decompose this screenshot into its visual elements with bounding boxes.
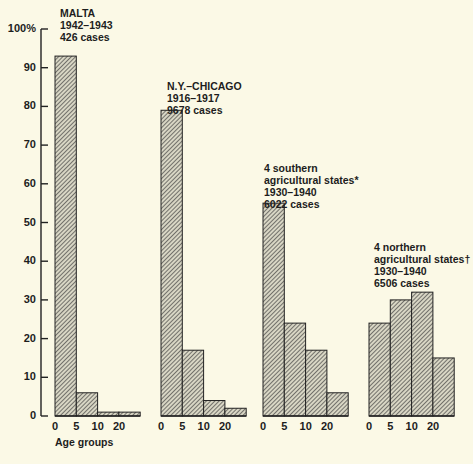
bar-group bbox=[55, 56, 140, 416]
x-tick-label: 20 bbox=[427, 420, 439, 432]
bar-group bbox=[161, 110, 246, 416]
y-tick-label: 100% bbox=[2, 22, 36, 34]
x-tick-label: 10 bbox=[300, 420, 312, 432]
x-tick-label: 0 bbox=[158, 420, 164, 432]
bar bbox=[161, 110, 182, 416]
age-distribution-bar-chart: 100%9080706050403020100MALTA1942–1943426… bbox=[0, 0, 473, 464]
y-tick-label: 10 bbox=[2, 370, 36, 382]
y-tick-label: 90 bbox=[2, 61, 36, 73]
x-tick-label: 5 bbox=[281, 420, 287, 432]
y-tick-label: 50 bbox=[2, 216, 36, 228]
bar bbox=[390, 300, 411, 416]
x-tick-label: 20 bbox=[113, 420, 125, 432]
y-tick-label: 80 bbox=[2, 99, 36, 111]
x-tick-label: 10 bbox=[92, 420, 104, 432]
bar bbox=[369, 323, 390, 416]
bar bbox=[225, 408, 246, 416]
series-title: MALTA1942–1943426 cases bbox=[60, 7, 113, 43]
x-tick-label: 10 bbox=[406, 420, 418, 432]
y-tick-label: 40 bbox=[2, 254, 36, 266]
bar bbox=[182, 350, 203, 416]
x-tick-label: 5 bbox=[73, 420, 79, 432]
bar-groups bbox=[55, 56, 454, 416]
x-tick-label: 10 bbox=[198, 420, 210, 432]
x-tick-label: 20 bbox=[219, 420, 231, 432]
bar bbox=[76, 393, 97, 416]
series-title: N.Y.–CHICAGO1916–19179678 cases bbox=[167, 80, 242, 116]
x-axis-label: Age groups bbox=[55, 436, 113, 448]
x-tick-label: 0 bbox=[52, 420, 58, 432]
bar bbox=[284, 323, 305, 416]
y-axis bbox=[41, 29, 48, 416]
bar bbox=[327, 393, 348, 416]
y-tick-label: 70 bbox=[2, 138, 36, 150]
bar bbox=[433, 358, 454, 416]
bar bbox=[204, 401, 225, 416]
series-title: 4 northernagricultural states†1930–19406… bbox=[374, 241, 470, 289]
x-tick-label: 5 bbox=[179, 420, 185, 432]
chart-canvas bbox=[0, 0, 473, 464]
y-tick-label: 0 bbox=[2, 409, 36, 421]
bar bbox=[55, 56, 76, 416]
x-tick-label: 20 bbox=[321, 420, 333, 432]
bar-group bbox=[263, 203, 348, 416]
bar bbox=[412, 292, 433, 416]
bar-group bbox=[369, 292, 454, 416]
bar bbox=[263, 203, 284, 416]
y-tick-label: 20 bbox=[2, 332, 36, 344]
x-tick-label: 0 bbox=[260, 420, 266, 432]
x-tick-label: 0 bbox=[366, 420, 372, 432]
bar bbox=[306, 350, 327, 416]
series-title: 4 southernagricultural states*1930–19406… bbox=[264, 162, 359, 210]
y-tick-label: 60 bbox=[2, 177, 36, 189]
y-tick-label: 30 bbox=[2, 293, 36, 305]
x-tick-label: 5 bbox=[387, 420, 393, 432]
